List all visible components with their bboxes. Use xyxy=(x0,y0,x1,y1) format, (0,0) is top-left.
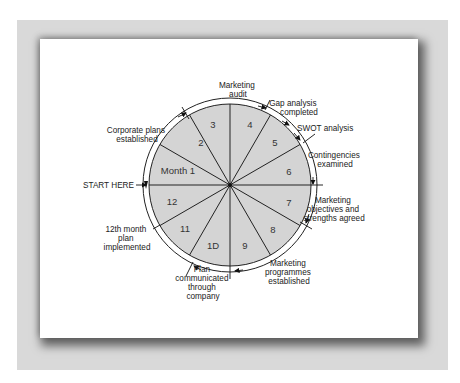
segment-label-7: 7 xyxy=(286,197,291,208)
segment-label-4: 4 xyxy=(247,119,252,130)
segment-label-12: 12 xyxy=(167,196,178,207)
segment-label-8: 8 xyxy=(270,224,275,235)
segment-label-6: 6 xyxy=(286,166,291,177)
segment-label-month-1: Month 1 xyxy=(161,165,195,176)
milestone-marketing-programmes: Marketing programmes established xyxy=(265,259,313,286)
segment-label-2: 2 xyxy=(198,137,203,148)
segment-label-11: 11 xyxy=(180,223,190,234)
segment-label-9: 9 xyxy=(242,240,247,251)
segment-label-3: 3 xyxy=(210,119,215,130)
milestone-start-here: START HERE xyxy=(83,181,134,190)
milestone-12th-month: 12th month plan implemented xyxy=(104,225,151,252)
segment-label-10: 1D xyxy=(207,240,219,251)
planning-cycle-diagram: Month 1 2 3 4 5 6 7 8 9 1D 11 12 xyxy=(0,0,460,383)
milestone-marketing-audit: Marketing audit xyxy=(219,81,257,99)
center-dot xyxy=(228,183,232,187)
segment-label-5: 5 xyxy=(272,137,277,148)
milestone-swot-analysis: SWOT analysis xyxy=(297,124,353,133)
milestone-contingencies: Contingencies examined xyxy=(308,151,362,169)
